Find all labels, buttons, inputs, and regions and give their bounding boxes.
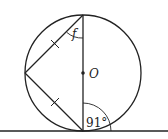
equal-mark-upper: [51, 40, 59, 48]
chord-lower: [25, 73, 83, 131]
angle-91-label: 91°: [86, 116, 107, 130]
chord-upper: [25, 15, 83, 73]
equal-mark-lower: [51, 98, 59, 106]
angle-f-label: f: [71, 27, 79, 41]
center-label: O: [89, 67, 99, 81]
center-point: [81, 71, 85, 75]
circle-diagram: O f 91°: [0, 0, 168, 139]
